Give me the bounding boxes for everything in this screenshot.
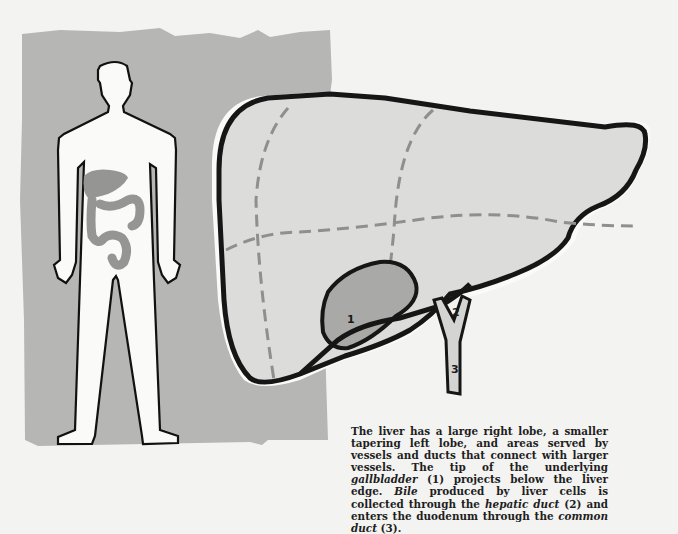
- label-gallbladder-1: 1: [347, 313, 355, 326]
- liver-shape: [219, 94, 646, 382]
- term-gallbladder: gallbladder: [351, 473, 417, 485]
- term-hepatic-duct: hepatic duct: [485, 498, 559, 510]
- figure-caption: The liver has a large right lobe, a smal…: [351, 425, 608, 534]
- label-common-duct-3: 3: [451, 363, 459, 376]
- label-hepatic-duct-2: 2: [452, 306, 460, 319]
- term-bile: Bile: [394, 485, 417, 497]
